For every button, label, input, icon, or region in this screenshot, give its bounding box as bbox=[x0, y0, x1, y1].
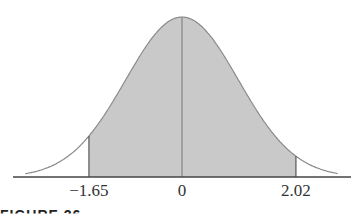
shaded-area bbox=[89, 17, 296, 177]
tick-label-center: 0 bbox=[178, 181, 187, 201]
tick-label-right: 2.02 bbox=[281, 181, 311, 201]
tick-label-left: −1.65 bbox=[69, 181, 108, 201]
